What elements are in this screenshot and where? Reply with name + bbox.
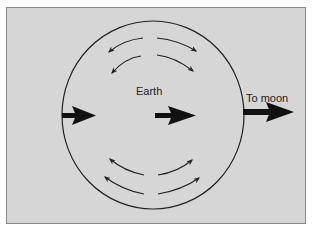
- diagram-stage: Earth To moon: [0, 0, 315, 229]
- earth-label: Earth: [136, 85, 162, 97]
- tidal-diagram: [0, 0, 315, 229]
- bottom-right-inner-arrow-icon: [158, 160, 192, 175]
- left-force-arrow-icon: [62, 106, 96, 125]
- top-left-inner-arrow-icon: [112, 56, 141, 73]
- top-right-inner-arrow-icon: [157, 55, 193, 71]
- top-flow-arrows: [109, 38, 196, 73]
- top-right-outer-arrow-icon: [157, 38, 196, 51]
- bottom-left-inner-arrow-icon: [110, 159, 144, 175]
- to-moon-label: To moon: [246, 92, 288, 104]
- to-moon-arrow-icon: [243, 102, 294, 122]
- bottom-flow-arrows: [105, 159, 199, 194]
- bottom-left-outer-arrow-icon: [105, 177, 144, 194]
- top-left-outer-arrow-icon: [109, 38, 143, 52]
- center-force-arrow-icon: [155, 106, 196, 125]
- bottom-right-outer-arrow-icon: [158, 178, 199, 194]
